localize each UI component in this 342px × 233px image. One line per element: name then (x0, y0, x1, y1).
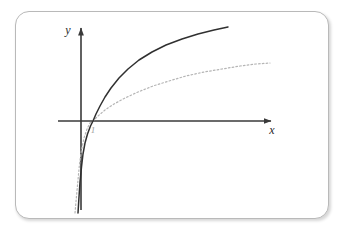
figure-card: y x 1 (15, 11, 329, 219)
dotted-logarithm-curve (75, 63, 270, 213)
x-intercept-tick-label: 1 (91, 125, 96, 135)
coordinate-plot: y x 1 (16, 12, 328, 218)
x-axis-label: x (268, 123, 275, 137)
solid-logarithm-curve (78, 27, 228, 213)
y-axis-label: y (64, 23, 71, 37)
